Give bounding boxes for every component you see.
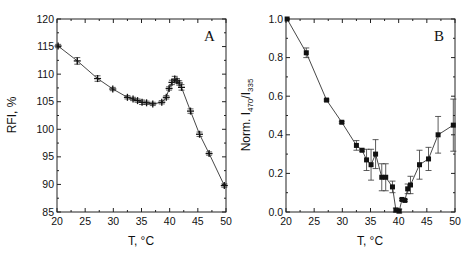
y-axis-label-b-sub1: 470 [246,98,255,112]
data-point-square [408,182,413,187]
data-point-square [360,148,365,153]
x-tick-label: 30 [107,215,119,227]
panel-label-b: B [434,28,444,44]
data-point-square [436,132,441,137]
data-point-square [285,17,290,22]
data-point-square [364,157,369,162]
data-point-square [324,98,329,103]
data-point-square [417,162,422,167]
data-point-square [304,50,309,55]
x-tick-label: 45 [192,215,204,227]
x-axis-label-b: T, °C [357,234,383,248]
data-point-square [383,175,388,180]
x-tick-label: 45 [421,215,433,227]
x-axis-label-a: T, °C [128,234,154,248]
y-tick-label: 95 [42,150,54,162]
axis-ticks-b: 202530354045500.00.20.40.60.81.0 [268,13,461,228]
x-tick-label: 25 [308,215,320,227]
y-tick-label: 0.0 [268,206,283,218]
x-tick-label: 25 [79,215,91,227]
data-series-b [285,17,457,214]
y-tick-label: 0.8 [268,51,283,63]
data-point-square [373,152,378,157]
data-point-square [390,184,395,189]
y-tick-label: 1.0 [268,13,283,25]
x-tick-label: 40 [393,215,405,227]
y-tick-label: 90 [42,178,54,190]
y-tick-label: 115 [37,40,54,52]
data-point-square [369,162,374,167]
y-tick-label: 100 [36,123,54,135]
y-tick-label: 85 [42,206,54,218]
chart-panel-b: 202530354045500.00.20.40.60.81.0 B T, °C… [239,13,461,249]
y-axis-label-a: RFI, % [5,96,19,133]
y-tick-label: 0.4 [268,128,283,140]
data-point-square [451,123,456,128]
x-tick-label: 35 [136,215,148,227]
y-axis-label-b-main: Norm. I [239,112,253,151]
chart-panel-a: 20253035404550859095100105110115120 A T,… [5,13,232,249]
y-tick-label: 120 [36,13,54,25]
data-point-square [354,143,359,148]
data-series-a [55,43,228,190]
y-tick-label: 110 [37,68,54,80]
series-line [287,19,453,211]
x-tick-label: 40 [164,215,176,227]
data-point-square [426,156,431,161]
plot-frame-a [57,19,226,212]
x-tick-label: 35 [365,215,377,227]
y-axis-label-b-sub2: 335 [246,78,255,92]
panel-label-a: A [204,28,215,44]
y-tick-label: 105 [36,95,54,107]
y-tick-label: 0.6 [268,90,283,102]
y-axis-label-b-mid: /I [239,92,253,99]
x-tick-label: 50 [220,215,232,227]
axis-ticks-a: 20253035404550859095100105110115120 [36,13,232,228]
figure: 20253035404550859095100105110115120 A T,… [0,0,476,255]
y-axis-label-b: Norm. I470/I335 [239,78,255,151]
plot-frame-b [286,19,455,212]
data-point-square [339,120,344,125]
x-tick-label: 50 [449,215,461,227]
y-tick-label: 0.2 [268,167,283,179]
data-point-square [397,209,402,214]
x-tick-label: 30 [336,215,348,227]
series-line [58,46,224,186]
data-point-square [402,198,407,203]
